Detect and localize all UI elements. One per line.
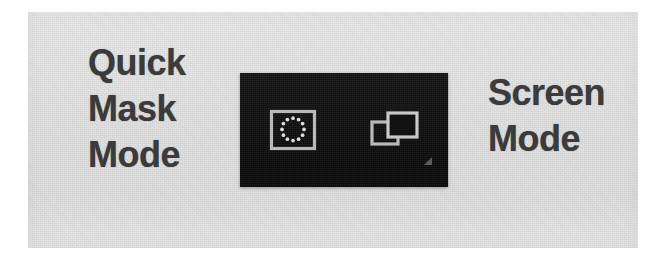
flyout-triangle-icon[interactable]	[424, 157, 432, 165]
quick-mask-mode-button[interactable]	[254, 90, 332, 170]
caption-line: Mode	[88, 132, 186, 178]
caption-line: Mask	[88, 86, 186, 132]
screen-mode-button[interactable]	[356, 90, 434, 170]
caption-line: Quick	[88, 40, 186, 86]
quick-mask-mode-caption: Quick Mask Mode	[88, 40, 186, 178]
quick-mask-icon	[269, 109, 317, 151]
screenshot-root: Quick Mask Mode	[0, 0, 666, 258]
toolbar-mode-group	[240, 73, 448, 187]
screen-mode-icon	[369, 108, 421, 152]
caption-line: Mode	[488, 116, 605, 162]
screen-mode-caption: Screen Mode	[488, 70, 605, 162]
caption-line: Screen	[488, 70, 605, 116]
